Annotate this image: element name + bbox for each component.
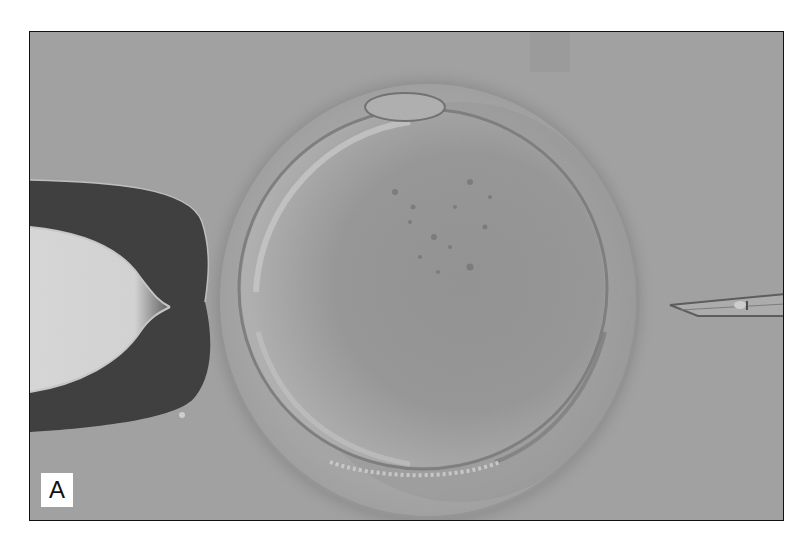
panel-label-text: A [49, 476, 65, 504]
micrograph-image [30, 32, 784, 521]
micrograph-frame: A [29, 31, 784, 521]
panel-label: A [41, 473, 73, 507]
